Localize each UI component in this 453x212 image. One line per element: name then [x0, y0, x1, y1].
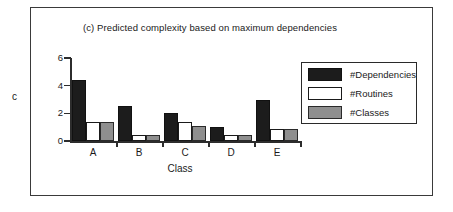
x-axis-tick: [208, 142, 210, 147]
y-axis-tick-label: 0: [52, 136, 63, 145]
x-axis-category-label: C: [170, 147, 200, 158]
bar-e-dep: [256, 100, 270, 142]
legend-item: #Routines: [308, 87, 413, 101]
plot-area: [70, 58, 300, 141]
legend-item-label: #Routines: [350, 88, 393, 99]
x-axis-tick: [116, 142, 118, 147]
bar-d-rou: [224, 135, 238, 141]
x-axis-category-label: B: [124, 147, 154, 158]
y-axis-tick-label: 2: [52, 108, 63, 117]
bar-b-rou: [132, 135, 146, 141]
white-swatch: [308, 87, 342, 100]
y-axis-label: c: [12, 91, 17, 102]
x-axis-category-label: D: [216, 147, 246, 158]
x-axis-tick: [300, 142, 302, 147]
legend-item-label: #Classes: [350, 107, 389, 118]
y-axis-tick-label: 4: [52, 81, 63, 90]
gray-swatch: [308, 106, 342, 119]
legend-item: #Dependencies: [308, 68, 413, 82]
x-axis-category-label: A: [78, 147, 108, 158]
x-axis-category-label: E: [262, 147, 292, 158]
black-swatch: [308, 68, 342, 81]
bar-a-dep: [72, 80, 86, 141]
chart-figure: (c) Predicted complexity based on maximu…: [0, 0, 453, 212]
bar-c-cla: [192, 126, 206, 141]
bar-a-cla: [100, 122, 114, 141]
legend-item: #Classes: [308, 106, 413, 120]
legend-item-label: #Dependencies: [350, 69, 416, 80]
bar-a-rou: [86, 122, 100, 141]
chart-title: (c) Predicted complexity based on maximu…: [60, 22, 360, 33]
x-axis-line: [70, 141, 302, 143]
x-axis-label: Class: [120, 163, 240, 174]
bar-d-dep: [210, 127, 224, 141]
bar-b-dep: [118, 106, 132, 141]
bar-e-cla: [284, 129, 298, 141]
x-axis-tick: [254, 142, 256, 147]
bar-b-cla: [146, 135, 160, 141]
bar-d-cla: [238, 135, 252, 141]
bar-c-dep: [164, 113, 178, 141]
x-axis-tick: [162, 142, 164, 147]
bar-c-rou: [178, 122, 192, 141]
y-axis-tick-label: 6: [52, 53, 63, 62]
chart-legend: #Dependencies#Routines#Classes: [301, 62, 417, 124]
bar-e-rou: [270, 129, 284, 141]
